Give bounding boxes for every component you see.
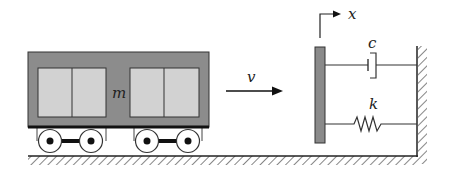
velocity-label: v — [247, 68, 256, 86]
cart-spring-damper-diagram: m v x c k — [0, 0, 449, 181]
wheel-icon — [177, 130, 200, 153]
window-left — [38, 68, 106, 117]
displacement-arrow-icon — [320, 11, 341, 39]
damper-label: c — [368, 34, 377, 52]
damper-icon — [325, 53, 417, 78]
ground — [28, 156, 418, 165]
window-right — [130, 68, 199, 117]
cart: m — [28, 52, 209, 153]
buffer-plate — [315, 47, 325, 143]
wheel-icon — [136, 130, 159, 153]
wheel-icon — [39, 130, 62, 153]
mass-label: m — [112, 84, 126, 102]
wheel-icon — [80, 130, 103, 153]
spring-label: k — [369, 95, 378, 113]
velocity-arrow-icon — [226, 87, 283, 96]
wall — [417, 46, 427, 164]
displacement-label: x — [348, 5, 357, 23]
spring-icon — [325, 117, 417, 131]
